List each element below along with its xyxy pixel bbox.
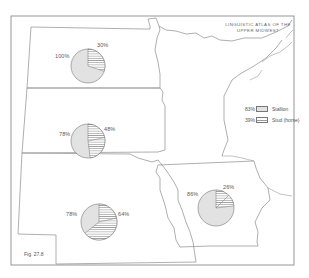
legend-percent: 39% bbox=[242, 117, 255, 123]
nd-stud-label: 30% bbox=[97, 42, 108, 48]
map-canvas bbox=[0, 0, 309, 278]
ne-stallion-label: 78% bbox=[66, 211, 77, 217]
pie-south-dakota bbox=[71, 124, 105, 158]
pie-nebraska bbox=[81, 204, 117, 240]
hatch-swatch-icon bbox=[256, 117, 268, 123]
ne-stud-label: 64% bbox=[118, 211, 129, 217]
figure-label: Fig. 27.8 bbox=[24, 251, 43, 257]
atlas-title: LINGUISTIC ATLAS OF THE UPPER MIDWEST bbox=[218, 22, 298, 34]
legend-item-stallion: 83% Stallion bbox=[242, 106, 288, 112]
sd-stud-label: 48% bbox=[104, 126, 115, 132]
lake-superior-shore bbox=[250, 30, 293, 80]
legend-item-stud: 39% Stud (horse) bbox=[242, 117, 300, 123]
nd-stallion-label: 100% bbox=[55, 53, 69, 59]
stipple-swatch-icon bbox=[256, 106, 268, 112]
map-figure: LINGUISTIC ATLAS OF THE UPPER MIDWEST 83… bbox=[0, 0, 309, 278]
atlas-title-line2: UPPER MIDWEST bbox=[218, 28, 298, 34]
pie-north-dakota bbox=[71, 49, 105, 83]
pie-iowa bbox=[198, 190, 234, 226]
ia-stud-label: 26% bbox=[223, 184, 234, 190]
frame-border bbox=[11, 16, 294, 265]
legend-percent: 83% bbox=[242, 106, 255, 112]
ia-stallion-label: 86% bbox=[187, 191, 198, 197]
legend-label: Stud (horse) bbox=[272, 117, 300, 123]
sd-stallion-label: 78% bbox=[59, 131, 70, 137]
state-minnesota bbox=[159, 20, 292, 156]
legend-label: Stallion bbox=[272, 106, 288, 112]
